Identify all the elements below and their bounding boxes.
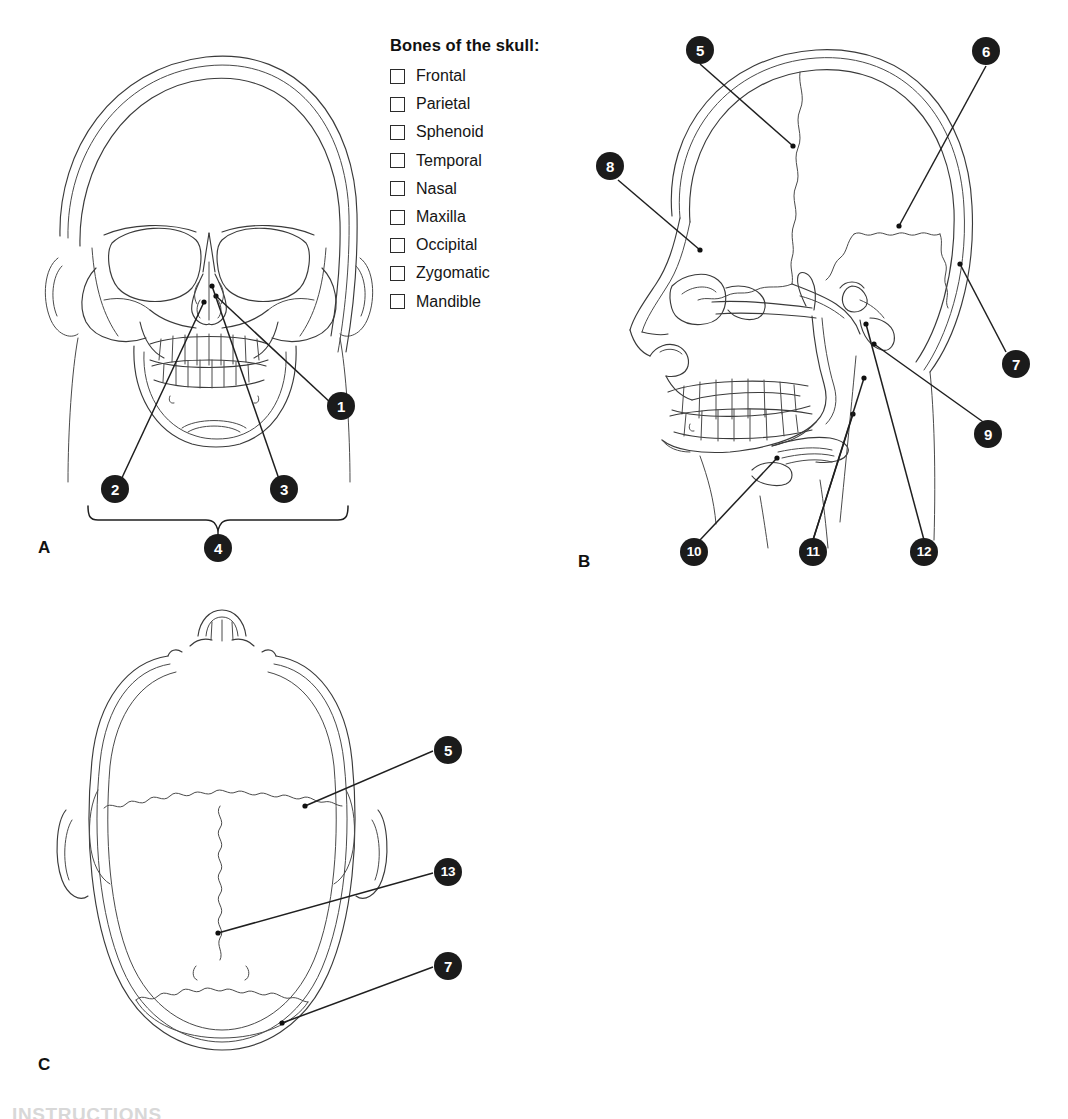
checklist-item-frontal[interactable]: Frontal	[390, 62, 570, 90]
checklist-label-temporal: Temporal	[416, 152, 482, 170]
marker-7[interactable]: 7	[1002, 350, 1030, 378]
marker-10[interactable]: 10	[680, 538, 708, 566]
marker-3[interactable]: 3	[270, 475, 298, 503]
checkbox-sphenoid[interactable]	[390, 125, 405, 140]
checklist-item-zygomatic[interactable]: Zygomatic	[390, 259, 570, 287]
checklist-item-mandible[interactable]: Mandible	[390, 288, 570, 316]
checkbox-parietal[interactable]	[390, 97, 405, 112]
panel-b-skull	[618, 50, 1006, 548]
checkbox-occipital[interactable]	[390, 238, 405, 253]
marker-4[interactable]: 4	[204, 534, 232, 562]
checklist-label-nasal: Nasal	[416, 180, 457, 198]
marker-6[interactable]: 6	[972, 37, 1000, 65]
marker-11[interactable]: 11	[799, 538, 827, 566]
checklist-item-sphenoid[interactable]: Sphenoid	[390, 118, 570, 146]
marker-9[interactable]: 9	[974, 420, 1002, 448]
checkbox-nasal[interactable]	[390, 181, 405, 196]
checklist-item-parietal[interactable]: Parietal	[390, 90, 570, 118]
instructions-heading: INSTRUCTIONS	[12, 1104, 162, 1119]
marker-12[interactable]: 12	[910, 538, 938, 566]
checklist-label-maxilla: Maxilla	[416, 208, 466, 226]
checklist-label-parietal: Parietal	[416, 95, 470, 113]
checklist-title: Bones of the skull:	[390, 36, 570, 55]
panel-c-skull	[57, 610, 433, 1050]
marker-8[interactable]: 8	[596, 152, 624, 180]
checkbox-temporal[interactable]	[390, 153, 405, 168]
checkbox-maxilla[interactable]	[390, 210, 405, 225]
checklist-label-occipital: Occipital	[416, 236, 477, 254]
panel-a-skull	[45, 56, 372, 536]
checklist-item-maxilla[interactable]: Maxilla	[390, 203, 570, 231]
marker-2[interactable]: 2	[101, 475, 129, 503]
checkbox-zygomatic[interactable]	[390, 266, 405, 281]
checklist-item-temporal[interactable]: Temporal	[390, 147, 570, 175]
checkbox-mandible[interactable]	[390, 294, 405, 309]
checklist-label-sphenoid: Sphenoid	[416, 123, 484, 141]
checkbox-frontal[interactable]	[390, 69, 405, 84]
checklist-label-mandible: Mandible	[416, 293, 481, 311]
panel-letter-c: C	[38, 1055, 50, 1075]
marker-5[interactable]: 5	[686, 36, 714, 64]
checklist-item-nasal[interactable]: Nasal	[390, 175, 570, 203]
checklist-label-zygomatic: Zygomatic	[416, 264, 490, 282]
marker-c-5[interactable]: 5	[434, 736, 462, 764]
checklist-label-frontal: Frontal	[416, 67, 466, 85]
marker-1[interactable]: 1	[327, 392, 355, 420]
worksheet-page: Bones of the skull: Frontal Parietal Sph…	[0, 0, 1068, 1119]
checklist-item-occipital[interactable]: Occipital	[390, 231, 570, 259]
marker-c-13[interactable]: 13	[434, 858, 462, 886]
panel-letter-b: B	[578, 552, 590, 572]
marker-c-7[interactable]: 7	[434, 952, 462, 980]
panel-letter-a: A	[38, 538, 50, 558]
bones-checklist: Bones of the skull: Frontal Parietal Sph…	[390, 36, 570, 316]
